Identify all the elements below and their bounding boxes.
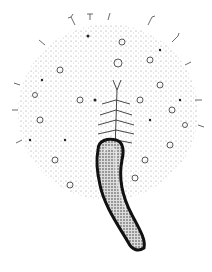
organism-illustration xyxy=(0,0,212,272)
illustration-canvas xyxy=(0,0,212,272)
